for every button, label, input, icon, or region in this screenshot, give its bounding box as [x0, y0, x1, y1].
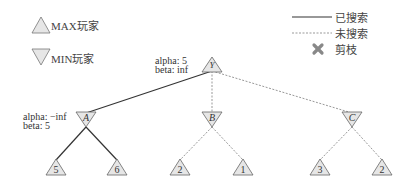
leaf-value: 3 — [310, 164, 330, 175]
node-B-label: B — [202, 112, 222, 123]
edge-B-2 — [180, 127, 212, 160]
legend-max-label: MAX玩家 — [51, 17, 99, 33]
legend-min-label: MIN玩家 — [51, 50, 94, 66]
legend-unsearched-label: 未搜索 — [335, 25, 368, 41]
root-beta-label: beta: inf — [155, 65, 188, 74]
leaf-value: 2 — [170, 164, 190, 175]
node-Y-label: Y — [202, 60, 222, 70]
leaf-value: 6 — [107, 164, 127, 175]
legend-min-triangle-icon — [32, 49, 50, 65]
node-C-label: C — [342, 112, 362, 123]
edge-Y-C — [212, 71, 352, 113]
legend-pruned-label: 剪枝 — [335, 41, 357, 57]
node-A-beta-label: beta: 5 — [23, 121, 50, 130]
legend-searched-label: 已搜索 — [335, 9, 368, 25]
leaf-value: 1 — [233, 164, 253, 175]
node-A-label: A — [76, 112, 96, 123]
legend-max-triangle-icon — [32, 17, 50, 33]
legend-prune-x-icon — [314, 45, 322, 53]
leaf-value: 5 — [46, 164, 66, 175]
edge-A-5 — [56, 127, 86, 160]
edge-C-2 — [352, 127, 382, 160]
edge-C-3 — [320, 127, 352, 160]
edge-Y-A — [86, 71, 212, 113]
edge-A-6 — [86, 127, 117, 160]
edge-B-1 — [212, 127, 243, 160]
leaf-value: 2 — [372, 164, 392, 175]
